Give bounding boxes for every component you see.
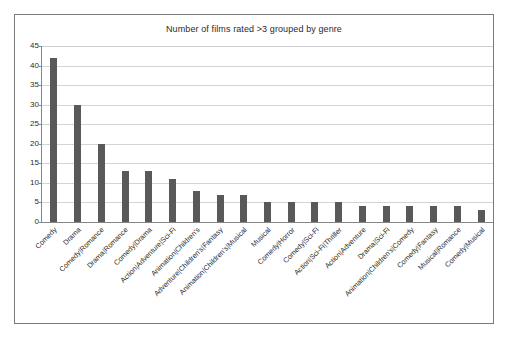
chart-title: Number of films rated >3 grouped by genr… <box>15 24 493 34</box>
bar-slot <box>137 46 161 222</box>
bar[interactable] <box>264 202 271 222</box>
y-tick-label: 10 <box>30 179 39 187</box>
x-tick-label: Drama <box>61 226 81 246</box>
bar[interactable] <box>359 206 366 222</box>
bar[interactable] <box>311 202 318 222</box>
y-tick-mark <box>39 222 42 223</box>
bar-slot <box>42 46 66 222</box>
bar-slot <box>89 46 113 222</box>
bar-slot <box>422 46 446 222</box>
bar-slot <box>374 46 398 222</box>
x-tick-label: Comedy <box>34 226 58 250</box>
x-label-slot: Comedy|Musical <box>469 224 493 324</box>
y-tick-label: 40 <box>30 62 39 70</box>
bar[interactable] <box>383 206 390 222</box>
bar[interactable] <box>217 195 224 222</box>
bar-slot <box>303 46 327 222</box>
bar[interactable] <box>454 206 461 222</box>
bar-slot <box>469 46 493 222</box>
bar[interactable] <box>74 105 81 222</box>
bar[interactable] <box>406 206 413 222</box>
bar-slot <box>327 46 351 222</box>
y-tick-label: 45 <box>30 42 39 50</box>
bar[interactable] <box>50 58 57 222</box>
bar-slot <box>279 46 303 222</box>
plot-area: 051015202530354045 <box>41 46 493 223</box>
y-tick-label: 25 <box>30 120 39 128</box>
bar-slot <box>232 46 256 222</box>
bar[interactable] <box>98 144 105 222</box>
bar-slot <box>208 46 232 222</box>
y-tick-label: 15 <box>30 159 39 167</box>
bar[interactable] <box>288 202 295 222</box>
bar-slot <box>184 46 208 222</box>
chart-frame: Number of films rated >3 grouped by genr… <box>14 14 494 324</box>
bar-slot <box>351 46 375 222</box>
y-tick-label: 30 <box>30 101 39 109</box>
y-tick-label: 20 <box>30 140 39 148</box>
x-axis-labels: ComedyDramaComedy|RomanceDrama|RomanceCo… <box>41 224 493 324</box>
bar-slot <box>113 46 137 222</box>
bar-slot <box>256 46 280 222</box>
bar-slot <box>161 46 185 222</box>
plot-wrapper: 051015202530354045 <box>41 46 493 223</box>
y-tick-label: 35 <box>30 81 39 89</box>
bar[interactable] <box>169 179 176 222</box>
bar-slot <box>445 46 469 222</box>
y-tick-label: 5 <box>35 198 39 206</box>
bar[interactable] <box>430 206 437 222</box>
bar[interactable] <box>335 202 342 222</box>
bar[interactable] <box>478 210 485 222</box>
bar-slot <box>398 46 422 222</box>
bar[interactable] <box>122 171 129 222</box>
bar[interactable] <box>145 171 152 222</box>
bar[interactable] <box>193 191 200 222</box>
bar-slot <box>66 46 90 222</box>
y-tick-label: 0 <box>35 218 39 226</box>
bar[interactable] <box>240 195 247 222</box>
bar-series <box>42 46 493 222</box>
